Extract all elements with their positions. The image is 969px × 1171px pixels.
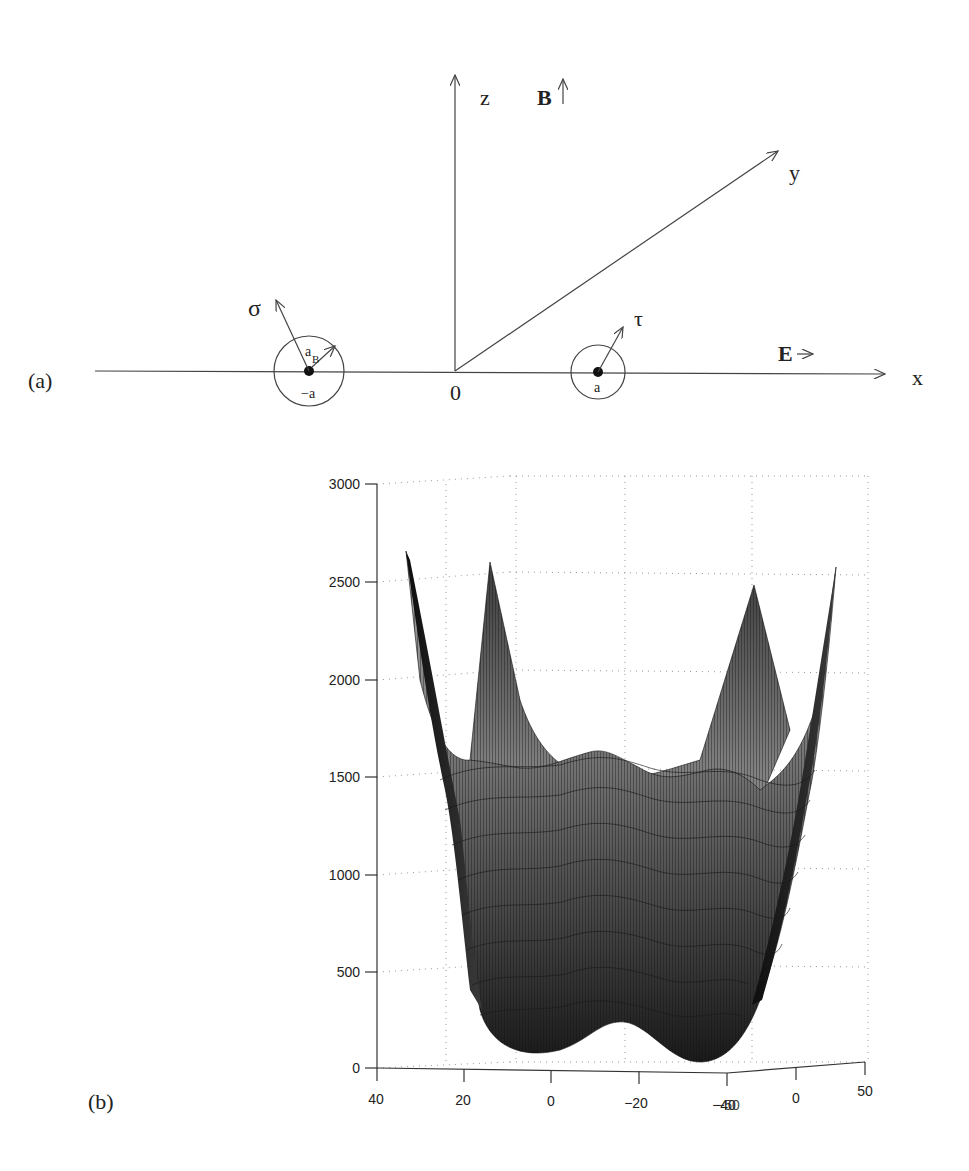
y-axis-label: y	[789, 160, 800, 185]
x-tick-label: 0	[547, 1093, 555, 1109]
tau-spin-arrow	[598, 327, 623, 372]
panel-a-diagram: x z y 0 B E σ a B −a τ	[28, 75, 923, 406]
b-field-label: B	[537, 85, 552, 110]
z-tick-label: 3000	[329, 476, 360, 492]
figure: x z y 0 B E σ a B −a τ	[0, 0, 969, 1171]
panel-b-surface-plot: 3000 2500 2000 1500 1000 500 0 40 20 0 −…	[88, 476, 873, 1114]
origin-label: 0	[450, 380, 461, 405]
sigma-label: σ	[248, 295, 261, 321]
e-field-label: E	[778, 341, 793, 366]
z-tick-label: 2000	[329, 672, 360, 688]
y-tick-label: 50	[857, 1083, 873, 1099]
x-tick-label: −20	[624, 1095, 648, 1111]
x-axis	[95, 371, 885, 374]
radius-subscript: B	[312, 353, 319, 365]
x-axis-ticks: 40 20 0 −20 −40	[368, 1068, 736, 1113]
left-vortex: σ a B −a	[248, 295, 344, 406]
y-tick-label: 0	[792, 1090, 800, 1106]
right-vortex: τ a	[571, 306, 643, 399]
x-axis-label: x	[912, 365, 923, 390]
z-axis-label: z	[480, 85, 490, 110]
tau-label: τ	[634, 306, 643, 331]
panel-b-label: (b)	[88, 1089, 114, 1114]
radius-label: a	[305, 344, 312, 359]
sigma-spin-arrow	[276, 300, 309, 371]
y-tick-label: −50	[716, 1097, 740, 1113]
panel-a-label: (a)	[28, 368, 52, 393]
z-tick-label: 2500	[329, 574, 360, 590]
z-tick-label: 1000	[329, 867, 360, 883]
z-tick-label: 500	[337, 964, 361, 980]
left-position-label: −a	[301, 386, 316, 401]
y-axis-ticks: −50 0 50	[716, 1062, 873, 1113]
x-tick-label: 20	[455, 1092, 471, 1108]
z-tick-label: 1500	[329, 769, 360, 785]
right-position-label: a	[594, 380, 601, 395]
x-axis-line	[377, 1068, 727, 1073]
z-tick-label: 0	[352, 1060, 360, 1076]
x-tick-label: 40	[368, 1091, 384, 1107]
z-axis-ticks: 3000 2500 2000 1500 1000 500 0	[329, 476, 377, 1076]
